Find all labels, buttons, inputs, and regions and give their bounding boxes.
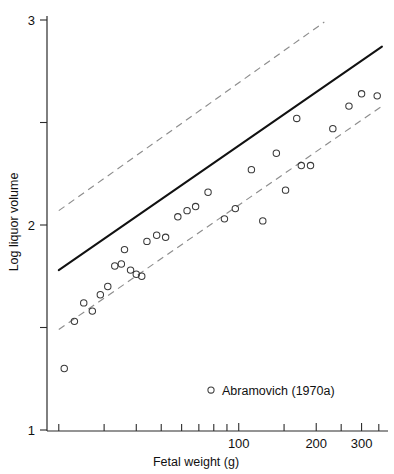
data-point <box>260 218 266 224</box>
data-point <box>221 216 227 222</box>
data-point <box>358 91 364 97</box>
data-point <box>89 308 95 314</box>
data-point <box>118 261 124 267</box>
legend: Abramovich (1970a) <box>208 384 335 398</box>
data-point <box>346 103 352 109</box>
data-point <box>232 205 238 211</box>
data-point <box>153 232 159 238</box>
data-point <box>282 187 288 193</box>
x-axis-tick-label: 300 <box>351 436 373 451</box>
legend-label: Abramovich (1970a) <box>222 384 335 398</box>
data-point <box>184 207 190 213</box>
data-point <box>144 238 150 244</box>
data-point <box>298 162 304 168</box>
x-axis-tick-label: 200 <box>305 436 327 451</box>
y-axis-tick-label: 1 <box>28 423 35 438</box>
data-point <box>205 189 211 195</box>
y-axis-tick-label: 2 <box>28 218 35 233</box>
y-axis-tick-label: 3 <box>28 13 35 28</box>
chart-figure: 123 100200300 Log liquor volume Fetal we… <box>0 0 394 474</box>
data-point <box>374 93 380 99</box>
x-axis-title: Fetal weight (g) <box>153 455 239 469</box>
scatter-plot-svg: 123 100200300 Log liquor volume Fetal we… <box>0 0 394 474</box>
data-point <box>273 150 279 156</box>
data-point <box>139 273 145 279</box>
regression-line <box>59 47 382 270</box>
data-point <box>61 365 67 371</box>
data-point <box>192 203 198 209</box>
data-point <box>175 214 181 220</box>
x-axis-tick-label: 100 <box>228 436 250 451</box>
data-point <box>294 115 300 121</box>
data-point <box>112 263 118 269</box>
data-points <box>61 91 380 372</box>
regression-fit-line <box>59 47 382 270</box>
data-point <box>81 300 87 306</box>
x-axis-tick-labels: 100200300 <box>228 436 373 451</box>
data-point <box>330 125 336 131</box>
y-axis-tick-labels: 123 <box>28 13 35 438</box>
confidence-band-lower-limit <box>59 106 382 329</box>
data-point <box>127 267 133 273</box>
x-axis-ticks <box>59 423 379 431</box>
confidence-band-upper-limit <box>59 22 325 211</box>
data-point <box>307 162 313 168</box>
data-point <box>162 234 168 240</box>
y-axis-ticks <box>40 20 47 430</box>
data-point <box>248 166 254 172</box>
data-point <box>121 246 127 252</box>
data-point <box>97 292 103 298</box>
y-axis-title: Log liquor volume <box>7 173 21 272</box>
legend-marker-open-circle <box>208 387 214 393</box>
data-point <box>105 283 111 289</box>
